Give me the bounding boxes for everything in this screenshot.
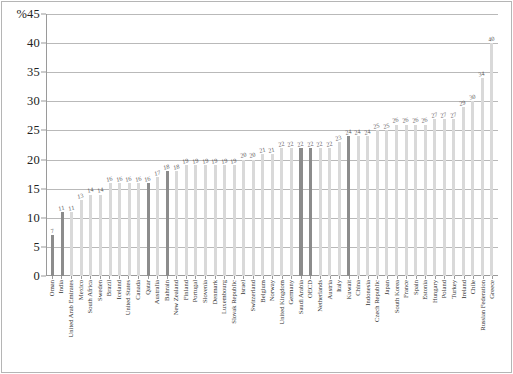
bar-slot: 16: [124, 14, 134, 276]
bar: 27: [433, 119, 436, 276]
x-tick-label: Qatar: [144, 280, 151, 295]
x-tick-label: Chile: [470, 280, 477, 294]
x-tick-mark: [61, 276, 62, 279]
x-tick-label: Indonesia: [365, 280, 372, 306]
bar-slot: 19: [210, 14, 220, 276]
x-tick-slot: Italy: [334, 277, 344, 373]
x-tick-label: South Africa: [87, 280, 94, 314]
x-tick-mark: [454, 276, 455, 279]
bar-series: 7111113141416161616161718181919191919192…: [47, 14, 498, 276]
bar-slot: 20: [248, 14, 258, 276]
x-tick-mark: [272, 276, 273, 279]
bar-value-label: 16: [115, 175, 122, 182]
bar: 18: [175, 171, 178, 276]
x-tick-slot: Oman: [47, 277, 57, 373]
x-tick-label: Finland: [183, 280, 190, 300]
bar-slot: 30: [468, 14, 478, 276]
bar-value-label: 16: [144, 175, 151, 182]
bar-slot: 11: [67, 14, 77, 276]
bar-value-label: 11: [68, 204, 75, 211]
x-tick-label: Mexico: [77, 280, 84, 300]
y-tick-label: 25: [27, 124, 40, 137]
x-tick-label: Denmark: [211, 280, 218, 305]
x-tick-mark: [224, 276, 225, 279]
bar-value-label: 19: [220, 158, 227, 165]
x-tick-mark: [349, 276, 350, 279]
x-tick-slot: Slovak Republic: [229, 277, 239, 373]
bar-slot: 29: [459, 14, 469, 276]
x-tick-label: Sweden: [96, 280, 103, 301]
bar-value-label: 24: [344, 129, 351, 136]
x-tick-slot: Turkey: [449, 277, 459, 373]
x-tick-slot: Luxembourg: [219, 277, 229, 373]
bar: 19: [194, 165, 197, 276]
bar-value-label: 22: [297, 140, 304, 147]
bar-value-label: 25: [373, 123, 380, 130]
x-tick-label: Iceland: [116, 280, 123, 299]
bar-value-label: 22: [306, 140, 313, 147]
x-tick-slot: Slovenia: [200, 277, 210, 373]
bar-value-label: 24: [354, 129, 361, 136]
x-tick-label: India: [58, 280, 65, 294]
bar: 14: [89, 195, 92, 277]
bar: 22: [309, 148, 312, 276]
bar-value-label: 21: [268, 146, 275, 153]
bar-value-label: 18: [163, 163, 170, 170]
x-tick-mark: [397, 276, 398, 279]
x-tick-mark: [358, 276, 359, 279]
bar-slot: 40: [487, 14, 497, 276]
x-tick-slot: Mexico: [76, 277, 86, 373]
x-tick-label: Turkey: [451, 280, 458, 299]
x-tick-label: Luxembourg: [221, 280, 228, 314]
x-tick-slot: Japan: [382, 277, 392, 373]
bar: 25: [385, 130, 388, 276]
bar-slot: 22: [315, 14, 325, 276]
x-tick-mark: [310, 276, 311, 279]
x-tick-label: Czech Republic: [374, 280, 381, 322]
bar-value-label: 13: [77, 193, 84, 200]
x-tick-label: Italy: [336, 280, 343, 292]
bar: 22: [328, 148, 331, 276]
bar-slot: 26: [392, 14, 402, 276]
x-tick-label: Poland: [441, 280, 448, 298]
x-tick-label: Slovenia: [202, 280, 209, 303]
x-tick-slot: Spain: [411, 277, 421, 373]
bar: 22: [299, 148, 302, 276]
x-tick-mark: [157, 276, 158, 279]
bar-slot: 24: [344, 14, 354, 276]
x-tick-mark: [425, 276, 426, 279]
bar-value-label: 22: [325, 140, 332, 147]
x-tick-mark: [128, 276, 129, 279]
bar-value-label: 27: [440, 111, 447, 118]
bar: 20: [242, 160, 245, 276]
x-tick-label: South Korea: [393, 280, 400, 313]
x-tick-label: Estonia: [422, 280, 429, 300]
x-tick-slot: Belgium: [258, 277, 268, 373]
bar: 18: [166, 171, 169, 276]
bar-value-label: 17: [153, 169, 160, 176]
bar: 27: [443, 119, 446, 276]
x-tick-slot: Israel: [239, 277, 249, 373]
x-tick-mark: [406, 276, 407, 279]
y-tick-label: 30: [27, 95, 40, 108]
bar-slot: 27: [439, 14, 449, 276]
x-tick-slot: Canada: [133, 277, 143, 373]
x-tick-slot: Poland: [440, 277, 450, 373]
bar-value-label: 40: [488, 35, 495, 42]
x-tick-mark: [234, 276, 235, 279]
bar-value-label: 19: [201, 158, 208, 165]
bar-slot: 25: [382, 14, 392, 276]
bar: 24: [357, 136, 360, 276]
y-tick-label: 35: [27, 66, 40, 79]
x-tick-slot: United Arab Emirates: [66, 277, 76, 373]
bar: 16: [109, 183, 112, 276]
x-tick-mark: [483, 276, 484, 279]
bar: 25: [376, 130, 379, 276]
bar-value-label: 26: [402, 117, 409, 124]
bar-slot: 16: [115, 14, 125, 276]
bar-value-label: 34: [478, 70, 485, 77]
bar-value-label: 16: [134, 175, 141, 182]
x-tick-slot: Estonia: [421, 277, 431, 373]
bar-slot: 11: [58, 14, 68, 276]
x-tick-mark: [205, 276, 206, 279]
